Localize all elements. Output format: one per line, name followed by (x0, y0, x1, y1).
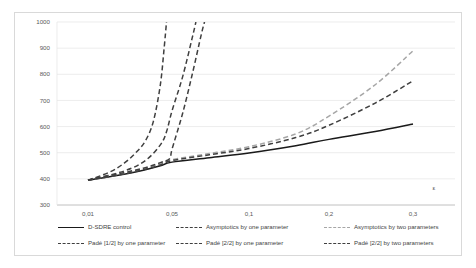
legend-swatch-dashed-icon (58, 239, 84, 247)
chart-legend: D-SDRE control Asymptotics by one parame… (14, 216, 462, 256)
legend-item-d-sdre-control[interactable]: D-SDRE control (14, 223, 174, 231)
legend-swatch-solid-icon (58, 223, 84, 231)
y-tick-label: 1000 (36, 18, 50, 25)
legend-label: Asymptotics by two parameters (354, 223, 439, 231)
y-tick-label: 300 (40, 201, 51, 208)
legend-label: Padé [1/2] by one parameter (88, 239, 165, 247)
legend-item-pade-2-2-one-parameter[interactable]: Padé [2/2] by one parameter (174, 239, 322, 247)
legend-swatch-dashed-icon (324, 223, 350, 231)
series-line (88, 22, 196, 180)
y-tick-label: 400 (40, 175, 51, 182)
y-tick-label: 900 (40, 44, 51, 51)
legend-item-pade-2-2-two-parameters[interactable]: Padé [2/2] by two parameters (322, 239, 462, 247)
y-tick-label: 500 (40, 149, 51, 156)
y-axis-tick-labels: 3004005006007008009001000 (36, 18, 50, 208)
x-axis-title: ε (433, 184, 436, 191)
series-group (88, 22, 413, 180)
y-tick-label: 700 (40, 97, 51, 104)
legend-swatch-dashed-icon (176, 239, 202, 247)
legend-swatch-dashed-icon (176, 223, 202, 231)
y-tick-label: 800 (40, 70, 51, 77)
legend-label: Asymptotics by one parameter (206, 223, 288, 231)
legend-swatch-dashed-icon (324, 239, 350, 247)
legend-item-asymptotics-one-parameter[interactable]: Asymptotics by one parameter (174, 223, 322, 231)
gridlines-group (57, 22, 455, 205)
legend-row-2: Padé [1/2] by one parameter Padé [2/2] b… (14, 235, 462, 251)
legend-row-1: D-SDRE control Asymptotics by one parame… (14, 219, 462, 235)
series-line (88, 22, 167, 180)
legend-label: Padé [2/2] by two parameters (354, 239, 434, 247)
chart-root: 3004005006007008009001000 0,010,050,10,2… (0, 0, 476, 268)
series-line (88, 22, 205, 180)
legend-label: D-SDRE control (88, 223, 131, 231)
y-tick-label: 600 (40, 123, 51, 130)
legend-item-pade-1-2-one-parameter[interactable]: Padé [1/2] by one parameter (14, 239, 174, 247)
series-line (88, 51, 413, 180)
legend-label: Padé [2/2] by one parameter (206, 239, 283, 247)
legend-item-asymptotics-two-parameters[interactable]: Asymptotics by two parameters (322, 223, 462, 231)
